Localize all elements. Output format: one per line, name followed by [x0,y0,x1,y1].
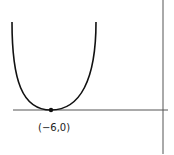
vertex-point [49,108,53,112]
parabola-curve [12,22,96,110]
vertex-label: (−6,0) [38,122,70,133]
chart-canvas: (−6,0) [0,0,174,155]
